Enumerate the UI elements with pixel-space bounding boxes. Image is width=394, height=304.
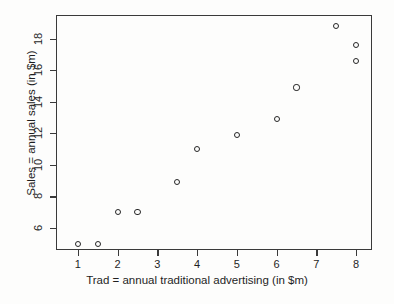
x-axis-tick-label: 3	[142, 258, 172, 271]
x-axis-tick	[237, 250, 238, 256]
x-axis-tick	[277, 250, 278, 256]
plot-frame	[56, 15, 372, 250]
y-axis-tick	[50, 70, 56, 71]
scatter-plot-figure: 12345678681012141618 Trad = annual tradi…	[0, 0, 394, 304]
y-axis-tick	[50, 39, 56, 40]
y-axis-label: Sales = annual sales (in $m)	[25, 6, 37, 241]
y-axis-tick	[50, 133, 56, 134]
x-axis-tick-label: 5	[222, 258, 252, 271]
x-axis-tick	[78, 250, 79, 256]
y-axis-tick	[50, 165, 56, 166]
x-axis-tick	[197, 250, 198, 256]
x-axis-tick-label: 6	[262, 258, 292, 271]
y-axis-tick	[50, 102, 56, 103]
x-axis-tick-label: 1	[63, 258, 93, 271]
x-axis-tick-label: 4	[182, 258, 212, 271]
x-axis-tick-label: 7	[301, 258, 331, 271]
x-axis-tick-label: 2	[103, 258, 133, 271]
y-axis-tick	[50, 228, 56, 229]
y-axis-tick	[50, 196, 56, 197]
x-axis-tick	[157, 250, 158, 256]
x-axis-label: Trad = annual traditional advertising (i…	[0, 274, 394, 286]
x-axis-tick-label: 8	[341, 258, 371, 271]
x-axis-tick	[118, 250, 119, 256]
x-axis-tick	[356, 250, 357, 256]
x-axis-tick	[316, 250, 317, 256]
